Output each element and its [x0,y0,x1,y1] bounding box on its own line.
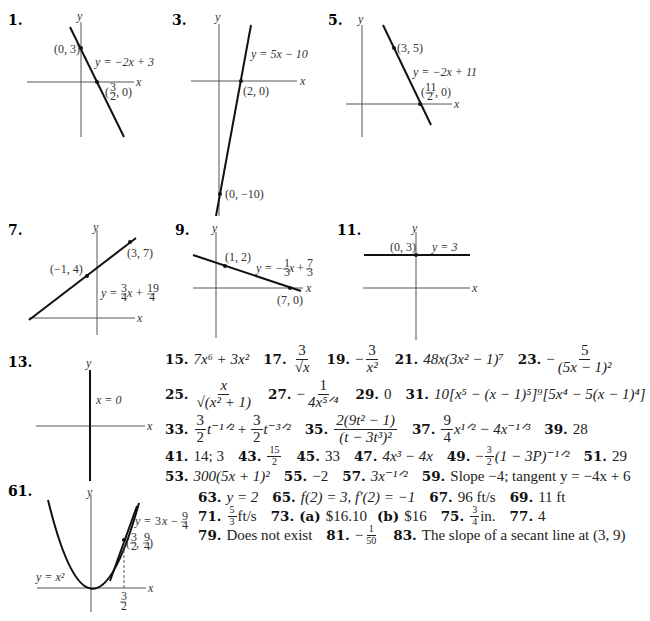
graph-3: 3. y x y = 5x − 10 (2, 0) (0, −10) [172,10,308,216]
svg-text:y =: y = [100,286,117,300]
svg-text:(: ( [105,85,109,99]
svg-text:): ) [149,536,153,550]
equation-label: y = 3 x − 9 4 [134,509,188,532]
point-label: ( 3 2 , 0) [105,80,132,103]
equation-label: y = 5x − 10 [250,47,308,61]
x-axis-label: x [147,581,154,595]
svg-text:, 0): , 0) [435,85,451,99]
point-label: ( 3 2 , 9 4 ) [126,530,153,553]
point-marker [128,240,132,244]
equation-label: y = −2x + 11 [412,65,477,79]
svg-text:2: 2 [427,89,433,103]
svg-text:x: x [161,514,168,528]
curve-label: y = x² [35,570,65,584]
svg-text:y =: y = [134,514,151,528]
point-marker [239,79,243,83]
x-axis-label: x [453,97,460,111]
svg-text:, 0): , 0) [116,85,132,99]
svg-text:3: 3 [155,514,161,528]
x-axis-label: x [146,419,153,433]
y-axis-label: y [411,221,418,235]
y-axis-label: y [86,485,93,499]
point-label: (3, 7) [127,246,153,260]
svg-text:2: 2 [121,599,127,613]
graph-5: 5. y x (3, 5) y = −2x + 11 ( 11 2 , 0) [328,12,477,137]
equation-label: y = 3 4 x + 19 4 [100,281,159,304]
point-marker [85,274,89,278]
x-axis-label: x [471,281,478,295]
equation-label: y = 3 [431,240,457,254]
x-axis-label: x [135,75,142,89]
svg-text:(: ( [126,536,130,550]
y-axis-label: y [211,221,218,235]
svg-text:4: 4 [149,290,155,304]
svg-text:x: x [288,261,295,275]
svg-text:−: − [276,261,283,275]
problem-number: 5. [328,12,343,28]
svg-text:+: + [136,286,143,300]
equation-label: x = 0 [95,393,121,407]
svg-text:x: x [126,286,133,300]
y-axis-label: y [214,10,221,24]
point-label: (3, 5) [397,41,423,55]
line-graph [29,238,136,320]
point-marker [218,192,222,196]
point-label: (7, 0) [277,293,303,307]
point-label: (1, 2) [225,250,251,264]
point-label: (2, 0) [243,84,269,98]
point-marker [223,264,227,268]
point-label: (0, −10) [225,187,264,201]
problem-number: 61. [8,483,32,499]
problem-number: 13. [8,354,32,370]
x-axis-label: x [305,281,312,295]
point-marker [95,80,99,84]
y-axis-label: y [76,9,83,23]
graph-9: 9. y x (1, 2) (7, 0) y = − 1 3 x + 7 3 [175,221,313,338]
point-label: (−1, 4) [50,262,83,276]
svg-text:,: , [136,536,139,550]
point-marker [418,102,422,106]
svg-text:4: 4 [182,518,188,532]
y-axis-label: y [92,220,99,234]
svg-text:y =: y = [255,261,272,275]
x-axis-label: x [299,74,306,88]
point-label: ( 11 2 , 0) [421,80,451,103]
point-label: (0, 3) [54,42,80,56]
problem-number: 9. [175,222,190,238]
svg-text:3: 3 [307,265,313,279]
graph-7: 7. y x (−1, 4) (3, 7) y = 3 4 x + 19 4 [8,220,159,335]
svg-text:+: + [297,261,304,275]
graph-61: 61. y x y = x² y = 3 x − 9 4 ( 3 2 , 9 4… [8,483,188,613]
problem-number: 1. [8,12,23,28]
equation-label: y = − 1 3 x + 7 3 [255,256,313,279]
graph-11: 11. y x (0, 3) y = 3 [337,221,478,340]
graph-13: 13. y x x = 0 [8,354,153,481]
svg-text:−: − [171,514,178,528]
problem-number: 7. [8,222,23,238]
point-marker [392,46,396,50]
equation-label: y = −2x + 3 [94,55,154,69]
y-axis-label: y [85,356,92,370]
point-label: (0, 3) [390,240,416,254]
graph-1: 1. y x (0, 3) y = −2x + 3 ( 3 2 , 0) [8,9,154,137]
problem-number: 11. [337,222,361,238]
x-axis-label: x [136,311,143,325]
tick-label: 3 2 [120,589,127,613]
problem-number: 3. [172,12,187,28]
point-marker [288,286,292,290]
y-axis-label: y [357,12,364,26]
